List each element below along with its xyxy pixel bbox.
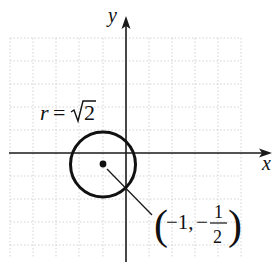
- radius-r: r: [40, 100, 49, 125]
- center-minus: −: [196, 210, 208, 234]
- center-point: [100, 161, 107, 168]
- center-fraction-denominator: 2: [213, 227, 222, 247]
- center-fraction-numerator: 1: [214, 202, 223, 222]
- center-close-paren: ): [228, 202, 242, 249]
- radius-value: 2: [84, 100, 95, 125]
- center-x-value: −1,: [166, 210, 194, 234]
- y-axis-label: y: [106, 4, 117, 27]
- center-label: ( −1, − 1 2 ): [154, 202, 242, 249]
- coordinate-plane: x y r = 2 ( −1, − 1 2 ): [0, 0, 278, 265]
- x-axis-label: x: [261, 152, 271, 174]
- radius-equals: =: [53, 100, 65, 125]
- radius-label: r = 2: [40, 100, 96, 125]
